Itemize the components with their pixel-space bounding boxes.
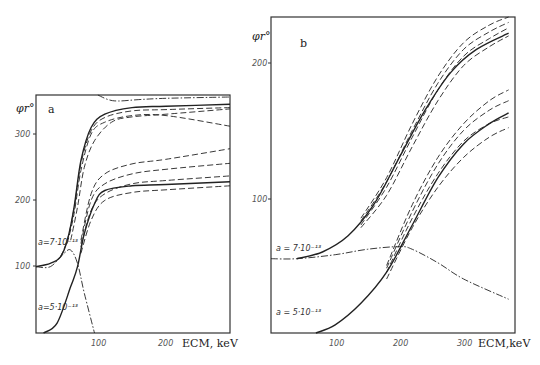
- curve-dash: [81, 163, 230, 243]
- x-tick-100: 100: [91, 339, 106, 348]
- x-tick-200: 200: [158, 339, 173, 348]
- annotation-b5: a = 5·10⁻¹³: [276, 308, 321, 317]
- annotation-a7: a=7·10⁻¹³: [38, 238, 78, 247]
- curve-dash: [81, 176, 230, 247]
- panel-label-a: a: [48, 103, 55, 116]
- curve-dashdot: [98, 95, 230, 101]
- panel-a-frame: [36, 95, 230, 333]
- panel-label-b: b: [300, 37, 307, 50]
- annotation-b7: a = 7·10⁻¹³: [276, 244, 321, 253]
- curve-dash: [81, 186, 230, 254]
- curve-solid: [316, 113, 509, 333]
- curve-dashdot: [36, 250, 95, 333]
- curve-dash: [387, 101, 509, 269]
- curve-dashdot: [271, 247, 509, 300]
- x-tick-200: 200: [393, 339, 408, 348]
- panel-b: 200 100 100 200 300 ECM,keV φr° b a = 7·…: [252, 17, 531, 350]
- x-axis-label: ECM,keV: [478, 337, 531, 350]
- y-tick-200: 200: [252, 59, 267, 68]
- y-tick-100: 100: [252, 195, 267, 204]
- x-tick-100: 100: [329, 339, 344, 348]
- x-axis-label: ECM, keV: [182, 337, 239, 350]
- curve-dash: [387, 128, 509, 279]
- panel-a-curves: [36, 95, 230, 333]
- y-tick-100: 100: [15, 262, 30, 271]
- annotation-a5: a=5·10⁻¹³: [38, 303, 78, 312]
- y-axis-label: φr°: [252, 30, 270, 43]
- panel-a: 300 200 100 100 200 ECM, keV φr° a a=7·1…: [15, 95, 239, 350]
- curve-dash: [361, 36, 509, 228]
- curve-dash: [387, 117, 509, 272]
- y-tick-200: 200: [15, 196, 30, 205]
- panel-b-curves: [271, 17, 509, 333]
- curve-dash: [67, 114, 230, 243]
- y-tick-300: 300: [15, 130, 30, 139]
- x-tick-300: 300: [457, 339, 472, 348]
- y-axis-label: φr°: [16, 102, 34, 115]
- figure: 300 200 100 100 200 ECM, keV φr° a a=7·1…: [0, 0, 540, 365]
